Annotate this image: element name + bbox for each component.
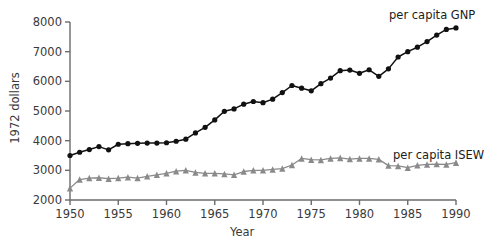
data-point (453, 25, 458, 30)
data-point (347, 67, 352, 72)
data-point (444, 27, 449, 32)
data-point (376, 74, 381, 79)
data-point (145, 140, 150, 145)
x-tick-label: 1955 (104, 207, 133, 221)
x-tick-label: 1970 (248, 207, 277, 221)
data-point (328, 75, 333, 80)
data-point (280, 90, 285, 95)
data-point (135, 141, 140, 146)
x-tick-label: 1965 (200, 207, 229, 221)
y-tick-label: 3000 (33, 163, 62, 177)
data-point (289, 162, 295, 169)
data-point (415, 45, 420, 50)
y-axis-title-text: 1972 dollars (8, 72, 22, 143)
y-tick-label: 2000 (33, 193, 62, 207)
data-point (96, 144, 101, 149)
data-point (357, 71, 362, 76)
x-tick-label: 1950 (55, 207, 84, 221)
data-point (338, 68, 343, 73)
data-point (309, 88, 314, 93)
y-tick-label: 6000 (33, 74, 62, 88)
data-point (260, 100, 265, 105)
data-point (116, 142, 121, 147)
y-tick-label: 7000 (33, 45, 62, 59)
data-point (386, 66, 391, 71)
data-point (222, 109, 227, 114)
series-label-gnp: per capita GNP (389, 8, 475, 22)
x-tick-label: 1975 (297, 207, 326, 221)
y-tick-label: 8000 (33, 15, 62, 29)
data-point (125, 141, 130, 146)
x-axis-title: Year (230, 225, 254, 239)
data-point (154, 140, 159, 145)
data-point (106, 147, 111, 152)
data-point (67, 153, 72, 158)
x-tick-label: 1960 (152, 207, 181, 221)
data-point (289, 83, 294, 88)
data-point (164, 140, 169, 145)
data-point (241, 102, 246, 107)
data-point (251, 99, 256, 104)
data-point (424, 39, 429, 44)
data-point (174, 139, 179, 144)
chart-container: 2000300040005000600070008000195019551960… (0, 0, 489, 248)
x-tick-label: 1985 (393, 207, 422, 221)
data-point (231, 106, 236, 111)
series-line-gnp (70, 28, 456, 156)
x-tick-label: 1990 (441, 207, 470, 221)
data-point (396, 54, 401, 59)
x-tick-label: 1980 (345, 207, 374, 221)
data-point (405, 49, 410, 54)
series-label-isew: per capita ISEW (393, 148, 484, 162)
data-point (77, 150, 82, 155)
data-point (87, 147, 92, 152)
data-point (212, 117, 217, 122)
data-point (434, 32, 439, 37)
data-point (193, 130, 198, 135)
y-tick-label: 5000 (33, 104, 62, 118)
data-point (367, 67, 372, 72)
data-point (183, 137, 188, 142)
data-point (270, 97, 275, 102)
y-tick-label: 4000 (33, 134, 62, 148)
data-point (299, 86, 304, 91)
data-point (203, 125, 208, 130)
line-chart-svg: 2000300040005000600070008000195019551960… (0, 0, 489, 248)
data-point (318, 81, 323, 86)
